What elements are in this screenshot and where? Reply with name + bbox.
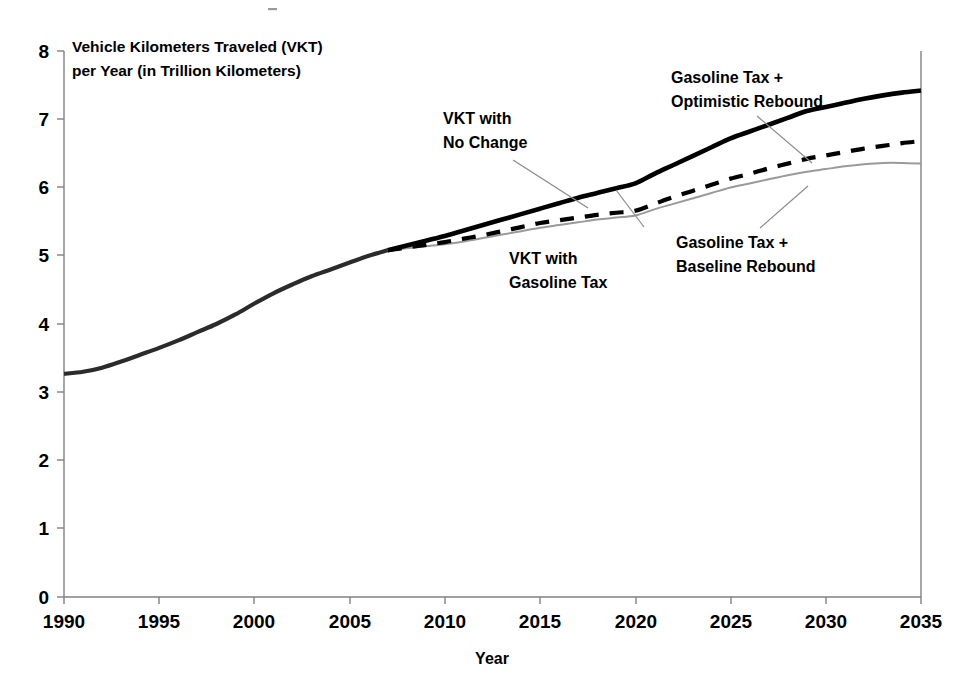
annotation-baseline-rebound: Gasoline Tax + Baseline Rebound [676,234,816,275]
leader-line-optimistic-rebound [757,116,812,163]
leader-line-vkt-no-change [513,160,588,208]
y-tick-marks [57,51,64,597]
x-tick-label-1990: 1990 [43,611,85,632]
series-line-historical-common [64,250,388,374]
x-tick-label-2005: 2005 [329,611,372,632]
y-tick-label-8: 8 [38,41,49,62]
y-tick-label-2: 2 [38,450,49,471]
annotation-optimistic-rebound: Gasoline Tax + Optimistic Rebound [671,69,823,110]
annotation-vkt-no-change: VKT with No Change [443,110,528,151]
y-axis-label-line-2: per Year (in Trillion Kilometers) [72,62,301,79]
x-tick-marks [64,597,921,604]
x-tick-label-2030: 2030 [805,611,847,632]
annotation-vkt-gasoline-tax-line-1: VKT with [509,250,577,267]
vkt-projection-chart: 8 7 6 5 4 3 2 1 0 1990 1995 2000 2005 20… [0,0,975,700]
annotation-vkt-no-change-line-1: VKT with [443,110,511,127]
annotation-vkt-gasoline-tax: VKT with Gasoline Tax [509,250,608,291]
x-tick-label-2020: 2020 [615,611,657,632]
x-tick-label-2010: 2010 [424,611,466,632]
x-tick-label-2035: 2035 [900,611,943,632]
series-line-optimistic-rebound [388,141,921,250]
x-tick-label-2000: 2000 [233,611,275,632]
y-tick-label-4: 4 [38,314,49,335]
annotation-optimistic-rebound-line-1: Gasoline Tax + [671,69,783,86]
annotation-vkt-no-change-line-2: No Change [443,134,528,151]
y-tick-labels: 8 7 6 5 4 3 2 1 0 [38,41,49,608]
y-tick-label-7: 7 [38,109,49,130]
x-tick-label-2015: 2015 [519,611,562,632]
y-tick-label-6: 6 [38,177,49,198]
scan-artifact-speck [268,8,277,10]
annotation-baseline-rebound-line-2: Baseline Rebound [676,258,816,275]
chart-canvas: 8 7 6 5 4 3 2 1 0 1990 1995 2000 2005 20… [0,0,975,700]
annotation-optimistic-rebound-line-2: Optimistic Rebound [671,93,823,110]
x-tick-label-2025: 2025 [710,611,753,632]
x-axis-title: Year [475,650,509,667]
y-tick-label-0: 0 [38,587,49,608]
y-axis-label-line-1: Vehicle Kilometers Traveled (VKT) [72,38,323,55]
leader-line-baseline-rebound [760,186,808,228]
y-tick-label-3: 3 [38,382,49,403]
x-tick-label-1995: 1995 [138,611,181,632]
annotation-vkt-gasoline-tax-line-2: Gasoline Tax [509,274,608,291]
y-tick-label-1: 1 [38,518,49,539]
x-tick-labels: 1990 1995 2000 2005 2010 2015 2020 2025 … [43,611,943,632]
y-tick-label-5: 5 [38,245,49,266]
annotation-baseline-rebound-line-1: Gasoline Tax + [676,234,788,251]
